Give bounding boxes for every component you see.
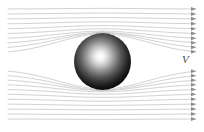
- flow-arrowhead-icon: [191, 107, 196, 111]
- flow-arrowhead-icon: [191, 112, 196, 116]
- streamline: [8, 22, 196, 24]
- flow-arrowhead-icon: [191, 45, 196, 49]
- flow-arrowhead-icon: [191, 102, 196, 106]
- flow-arrowhead-icon: [191, 27, 196, 31]
- flow-arrowhead-icon: [191, 31, 196, 35]
- arrowhead-group: [191, 7, 196, 121]
- flow-arrowhead-icon: [191, 7, 196, 11]
- velocity-label: V: [182, 54, 189, 65]
- flow-arrowhead-icon: [191, 12, 196, 16]
- flow-arrowhead-icon: [191, 83, 196, 87]
- flow-arrowhead-icon: [191, 97, 196, 101]
- streamline: [8, 8, 196, 9]
- flow-arrowhead-icon: [191, 69, 196, 73]
- flow-arrowhead-icon: [191, 50, 196, 54]
- flow-diagram-figure: V: [0, 0, 204, 132]
- streamline: [8, 109, 196, 110]
- flow-arrowhead-icon: [191, 36, 196, 40]
- streamline: [8, 18, 196, 19]
- streamline: [8, 104, 196, 105]
- flow-arrowhead-icon: [191, 22, 196, 26]
- flow-arrowhead-icon: [191, 88, 196, 92]
- streamline: [8, 94, 196, 97]
- streamline-canvas: [0, 0, 204, 132]
- flow-arrowhead-icon: [191, 117, 196, 121]
- sphere-obstacle: [74, 33, 131, 90]
- flow-arrowhead-icon: [191, 41, 196, 45]
- flow-arrowhead-icon: [191, 17, 196, 21]
- streamline: [8, 26, 196, 29]
- flow-arrowhead-icon: [191, 78, 196, 82]
- flow-arrowhead-icon: [191, 92, 196, 96]
- streamline: [8, 99, 196, 101]
- flow-arrowhead-icon: [191, 74, 196, 78]
- streamline: [8, 13, 196, 14]
- streamline: [8, 114, 196, 115]
